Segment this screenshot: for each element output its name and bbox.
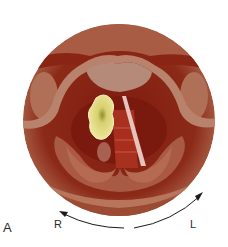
laryngoscopy-illustration (0, 0, 228, 247)
left-side-label: L (190, 218, 196, 230)
arrow-right-direction (64, 214, 124, 228)
scope-view (20, 20, 220, 220)
panel-label: A (3, 220, 12, 235)
arrowhead-right-icon (59, 211, 68, 217)
right-side-label: R (54, 218, 62, 230)
